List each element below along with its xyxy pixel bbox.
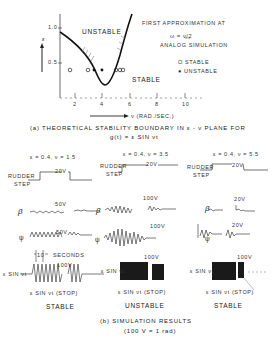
run2-rudder-scale: 20V: [146, 161, 158, 167]
run3-result: STABLE: [214, 302, 243, 309]
run3-rudder-scale: 20V: [232, 162, 244, 168]
run2-beta-scale: 100V: [143, 195, 158, 201]
run1-stop-label: ε SIN νt (STOP): [30, 290, 78, 296]
run2-psi-scale: 100V: [150, 223, 165, 229]
run1-step-label: STEP: [14, 181, 31, 187]
run2-rudder-label: RUDDER: [100, 163, 127, 169]
run3-stop-label: ε SIN νt (STOP): [206, 289, 254, 295]
run2-beta-symbol: β: [96, 206, 101, 215]
run3-step-label: STEP: [193, 172, 210, 178]
run3-excitation-label: ε SIN νt: [190, 268, 214, 274]
run1-result: STABLE: [46, 303, 75, 310]
run1-beta-scale: 50V: [55, 201, 67, 207]
run1-psi-scale: 50V: [56, 229, 68, 235]
run3-psi-scale: 20V: [232, 222, 244, 228]
run2-result: UNSTABLE: [125, 302, 164, 309]
run1-time-unit: SECONDS: [53, 252, 84, 258]
run3-params: ε = 0.4, ν = 5.5: [213, 151, 259, 157]
run3-psi-symbol: ψ: [205, 235, 210, 242]
run2-step-label: STEP: [106, 171, 123, 177]
run2-stop-label: ε SIN νt (STOP): [118, 289, 166, 295]
run1-excitation-label: ε SIN νt: [3, 271, 27, 277]
run2-excitation-label: ε SIN νt: [101, 268, 125, 274]
run1-excitation-scale: 100V: [57, 262, 72, 268]
run1-psi-symbol: ψ: [19, 234, 24, 241]
run2-psi-symbol: ψ: [95, 236, 100, 243]
run2-excitation-scale: 100V: [144, 254, 159, 260]
run1-params: ε = 0.4, ν = 1.5: [30, 154, 76, 160]
run1-rudder-label: RUDDER: [8, 173, 35, 179]
run3-rudder-label: RUDDER: [187, 164, 214, 170]
run3-beta-scale: 20V: [234, 196, 246, 202]
run2-params: ε = 0.4, ν = 3.5: [123, 151, 169, 157]
run1-time-scale: 10: [37, 252, 44, 258]
run3-beta-symbol: β: [205, 204, 210, 213]
run1-rudder-scale: 20V: [55, 168, 67, 174]
caption-b-line2: (100 V = 1 rad): [124, 328, 176, 334]
caption-b-line1: (b) SIMULATION RESULTS: [100, 318, 192, 324]
run1-beta-symbol: β: [18, 207, 23, 216]
run3-excitation-scale: 100V: [237, 254, 252, 260]
